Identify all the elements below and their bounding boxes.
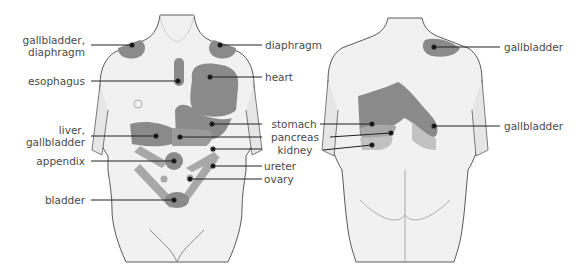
label-gallbladder-diaphragm: gallbladder, diaphragm: [23, 34, 85, 58]
label-line: gallbladder: [504, 41, 563, 53]
label-line: appendix: [36, 155, 85, 167]
zone-diaphragm: [209, 40, 236, 59]
label-esophagus: esophagus: [28, 75, 85, 87]
label-heart: heart: [265, 71, 293, 83]
label-diaphragm: diaphragm: [265, 39, 322, 51]
label-line: ureter: [264, 160, 296, 172]
label-line: stomach: [266, 118, 322, 130]
label-ovary: ovary: [264, 173, 294, 185]
label-line: bladder: [45, 194, 85, 206]
label-line: kidney: [270, 144, 320, 156]
label-line: esophagus: [28, 75, 85, 87]
label-line: gallbladder: [504, 120, 563, 132]
label-line: pancreas: [264, 131, 326, 143]
label-line: gallbladder: [26, 136, 85, 148]
front-torso: [92, 15, 262, 262]
zone-heart: [190, 64, 238, 117]
label-stomach: stomach: [266, 118, 322, 130]
label-appendix: appendix: [36, 155, 85, 167]
zone-liver: [130, 122, 172, 146]
zone-ovary-left: [161, 176, 168, 183]
label-liver-gallbladder: liver, gallbladder: [26, 124, 85, 148]
label-bladder: bladder: [45, 194, 85, 206]
label-pancreas: pancreas: [264, 131, 326, 143]
label-kidney: kidney: [270, 144, 320, 156]
label-ureter: ureter: [264, 160, 296, 172]
label-line: ovary: [264, 173, 294, 185]
label-line: diaphragm: [23, 46, 85, 58]
label-back-gallbladder-shoulder: gallbladder: [504, 41, 563, 53]
label-line: gallbladder,: [23, 34, 85, 46]
label-back-gallbladder: gallbladder: [504, 120, 563, 132]
referred-pain-diagram: gallbladder, diaphragm esophagus liver, …: [0, 0, 577, 270]
label-line: heart: [265, 71, 293, 83]
label-line: liver,: [26, 124, 85, 136]
label-line: diaphragm: [265, 39, 322, 51]
back-torso: [322, 18, 488, 262]
